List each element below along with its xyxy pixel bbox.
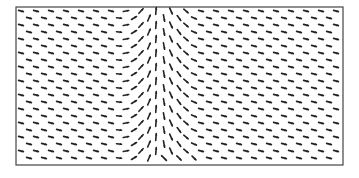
quiver-plot bbox=[0, 0, 359, 178]
vector-arrows bbox=[19, 8, 339, 161]
plot-frame bbox=[16, 7, 343, 165]
